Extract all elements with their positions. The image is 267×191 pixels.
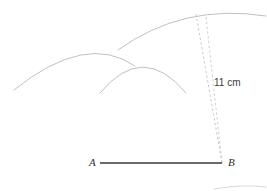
point-label-a: A bbox=[89, 157, 96, 168]
arc-left bbox=[14, 53, 135, 90]
arc-middle bbox=[100, 67, 186, 93]
point-label-b: B bbox=[228, 157, 235, 168]
radius-line-outer bbox=[196, 14, 222, 163]
arc-large-right bbox=[118, 13, 266, 50]
arc-bottom-right-fragment bbox=[214, 186, 266, 189]
diagram-canvas bbox=[0, 0, 267, 191]
radius-line-inner bbox=[206, 17, 222, 163]
construction-diagram: A B 11 cm bbox=[0, 0, 267, 191]
dimension-label-11cm: 11 cm bbox=[214, 78, 241, 88]
